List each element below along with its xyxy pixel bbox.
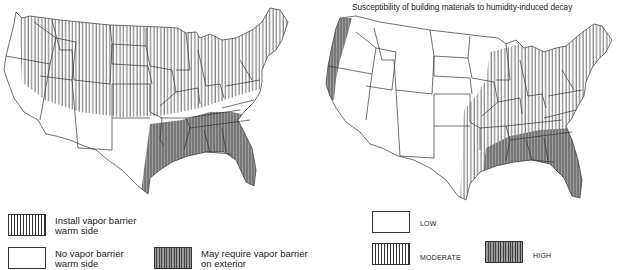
legend-swatch-blank	[8, 247, 46, 269]
legend-item-moderate: MODERATE	[372, 243, 461, 265]
legend-swatch-dense-lines	[485, 241, 523, 263]
legend-label-low: LOW	[420, 219, 437, 229]
legend-item-exterior-vapor-barrier: May require vapor barrier on exterior	[154, 247, 308, 269]
legend-label: No vapor barrier warm side	[55, 249, 124, 269]
legend-item-low: LOW	[372, 211, 437, 233]
legend-item-install-vapor-barrier: Install vapor barrier warm side	[8, 214, 136, 236]
vapor-barrier-map-panel: Install vapor barrier warm side No vapor…	[0, 0, 310, 270]
legend-swatch-vertical-lines	[372, 243, 410, 265]
legend-label: Install vapor barrier warm side	[55, 216, 136, 236]
legend-swatch-blank	[372, 211, 410, 233]
vapor-barrier-us-map	[0, 0, 310, 205]
legend-item-high: HIGH	[485, 241, 551, 263]
legend-label-high: HIGH	[533, 251, 551, 261]
legend-label-moderate: MODERATE	[420, 253, 461, 263]
legend-item-no-vapor-barrier: No vapor barrier warm side	[8, 247, 124, 269]
decay-susceptibility-us-map	[310, 0, 617, 205]
legend-swatch-dense-lines	[154, 247, 192, 269]
legend-label: May require vapor barrier on exterior	[201, 249, 308, 269]
legend-swatch-vertical-lines	[8, 214, 46, 236]
decay-susceptibility-map-panel: Susceptibility of building materials to …	[310, 0, 617, 270]
